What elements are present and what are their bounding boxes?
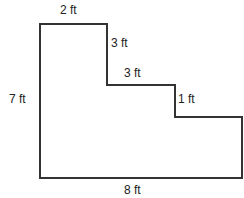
label-left: 7 ft xyxy=(9,92,26,106)
label-upper-step-vertical: 3 ft xyxy=(111,36,128,50)
shape-outline xyxy=(40,24,242,178)
label-top: 2 ft xyxy=(60,3,77,17)
l-shape-figure xyxy=(0,0,244,198)
label-bottom: 8 ft xyxy=(124,183,141,197)
label-lower-step-vertical: 1 ft xyxy=(178,92,195,106)
label-middle-step-horizontal: 3 ft xyxy=(124,66,141,80)
